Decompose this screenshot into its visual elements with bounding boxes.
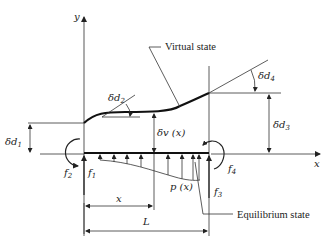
virtual-deflected-curve <box>84 93 209 123</box>
moment-f2: f2 <box>63 139 80 180</box>
delta-d3-dimension: δd3 <box>269 95 290 152</box>
x-axis: x <box>40 154 320 169</box>
x-dimension: x <box>84 193 152 236</box>
force-f1: f1 <box>84 156 96 195</box>
svg-text:L: L <box>142 216 150 227</box>
svg-text:δd4: δd4 <box>258 70 275 83</box>
moment-f4: f4 <box>203 141 236 176</box>
svg-text:f3: f3 <box>213 186 223 199</box>
svg-text:f4: f4 <box>227 163 236 176</box>
virtual-state-callout: Virtual state <box>149 41 216 107</box>
virtual-work-beam-diagram: y x Virtual state δd1 δd2 δv (x) <box>0 0 330 249</box>
force-f3: f3 <box>209 156 223 199</box>
delta-d2-slope: δd2 <box>102 92 140 117</box>
svg-text:δd2: δd2 <box>108 92 125 105</box>
equilibrium-state-callout: Equilibrium state <box>195 162 310 220</box>
virtual-state-label: Virtual state <box>165 41 216 52</box>
y-axis: y <box>73 11 84 234</box>
distributed-load: p (x) <box>100 155 200 192</box>
svg-text:x: x <box>116 193 122 204</box>
delta-d4-slope: δd4 <box>209 60 281 93</box>
svg-text:δd1: δd1 <box>5 136 22 149</box>
y-axis-label: y <box>73 11 80 22</box>
svg-text:f2: f2 <box>63 167 73 180</box>
delta-d1-dimension: δd1 <box>5 123 84 152</box>
x-axis-label: x <box>314 158 320 169</box>
L-dimension: L <box>86 216 207 231</box>
svg-text:δd3: δd3 <box>273 119 290 132</box>
equilibrium-state-label: Equilibrium state <box>237 209 310 220</box>
delta-v-dimension: δv (x) <box>154 114 185 210</box>
svg-text:f1: f1 <box>87 167 96 180</box>
svg-text:p (x): p (x) <box>170 181 193 192</box>
svg-text:δv (x): δv (x) <box>157 127 185 138</box>
